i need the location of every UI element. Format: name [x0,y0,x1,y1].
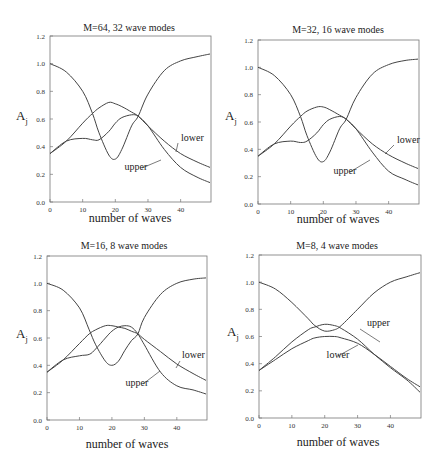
y-axis-label-sub: j [25,117,27,126]
x-tick-label: 10 [288,422,296,430]
curve-lower [258,107,418,169]
y-tick-label: 0.6 [33,335,42,343]
y-tick-label: 0.4 [36,143,45,151]
y-axis-label-1: Aj [16,108,28,126]
y-tick-label: 0.8 [36,88,45,96]
curve-reference [259,273,420,332]
y-tick-label: 0.4 [244,146,253,154]
chart-panel-1: 0.00.20.40.60.81.01.2010203040lowerupper [36,33,211,215]
y-tick-label: 0.2 [36,171,45,179]
x-axis-label-4: number of waves [297,435,380,450]
y-axis-label-main: A [227,324,236,339]
x-tick-label: 30 [141,424,149,432]
annotation-upper: upper [367,317,390,328]
y-tick-label: 0.4 [245,360,254,368]
y-tick-label: 1.2 [245,252,254,260]
annotation-lower: lower [182,349,205,360]
y-axis-label-2: Aj [225,108,237,126]
y-axis-label-main: A [16,326,25,341]
x-axis-label-3: number of waves [86,437,169,452]
figure-canvas: 0.00.20.40.60.81.01.2010203040lowerupper… [0,0,441,468]
annotation-pointer [385,145,394,154]
y-tick-label: 1.0 [36,60,45,68]
y-tick-label: 0.0 [244,201,253,209]
x-tick-label: 10 [79,206,87,214]
annotation-pointer [360,329,380,342]
y-axis-label-main: A [16,108,25,123]
y-tick-label: 0.0 [245,415,254,423]
plot-frame [47,256,207,420]
x-tick-label: 20 [321,422,329,430]
y-axis-label-3: Aj [16,326,28,344]
x-axis-label-1: number of waves [89,211,172,226]
y-axis-label-sub: j [236,333,238,342]
curve-upper [50,115,210,183]
y-tick-label: 1.0 [245,279,254,287]
y-tick-label: 0.2 [244,173,253,181]
y-tick-label: 0.0 [33,417,42,425]
y-tick-label: 0.2 [245,387,254,395]
x-tick-label: 40 [173,424,181,432]
x-tick-label: 20 [108,424,116,432]
x-axis-label-2: number of waves [297,212,380,227]
x-tick-label: 0 [48,206,52,214]
chart-panel-4: 0.00.20.40.60.81.01.2010203040upperlower [245,252,421,431]
curve-reference [258,59,418,162]
x-tick-label: 10 [287,208,295,216]
plot-frame [50,36,211,202]
annotation-upper: upper [334,165,357,176]
chart-title-3: M=16, 8 wave modes [81,240,168,251]
plot-frame [258,40,419,204]
x-tick-label: 0 [256,208,260,216]
annotation-lower: lower [181,132,204,143]
y-tick-label: 0.8 [244,91,253,99]
y-tick-label: 1.2 [36,33,45,41]
x-tick-label: 40 [177,206,185,214]
y-tick-label: 1.2 [244,37,253,45]
annotation-lower: lower [327,349,350,360]
y-tick-label: 0.4 [33,362,42,370]
chart-panel-2: 0.00.20.40.60.81.01.2010203040lowerupper [244,37,420,217]
x-tick-label: 0 [45,424,49,432]
y-tick-label: 1.0 [244,64,253,72]
y-tick-label: 0.6 [244,119,253,127]
y-tick-label: 0.8 [33,307,42,315]
annotation-upper: upper [126,377,149,388]
chart-panel-3: 0.00.20.40.60.81.01.2010203040lowerupper [33,253,207,433]
y-axis-label-4: Aj [227,324,239,342]
x-tick-label: 10 [76,424,84,432]
x-tick-label: 40 [387,422,395,430]
annotation-pointer [176,361,180,368]
chart-title-1: M=64, 32 wave modes [83,22,175,33]
y-tick-label: 0.2 [33,389,42,397]
x-tick-label: 0 [257,422,261,430]
y-axis-label-main: A [225,108,234,123]
y-axis-label-sub: j [234,117,236,126]
chart-title-2: M=32, 16 wave modes [292,24,384,35]
x-tick-label: 40 [385,208,393,216]
annotation-lower: lower [397,134,420,145]
y-tick-label: 0.6 [245,333,254,341]
curve-lower [259,336,420,386]
y-axis-label-sub: j [25,335,27,344]
y-tick-label: 0.0 [36,199,45,207]
x-tick-label: 30 [354,422,362,430]
y-tick-label: 0.8 [245,306,254,314]
annotation-upper: upper [125,161,148,172]
y-tick-label: 0.6 [36,116,45,124]
y-tick-label: 1.0 [33,280,42,288]
y-tick-label: 1.2 [33,253,42,261]
chart-title-4: M=8, 4 wave modes [296,240,378,251]
curve-reference [50,54,210,159]
